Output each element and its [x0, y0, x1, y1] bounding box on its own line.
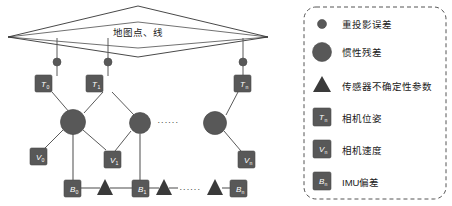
inertial-residual-n[interactable] — [204, 112, 227, 135]
node-Tn-subscript: n — [246, 84, 249, 90]
edge-In-Vn — [224, 131, 241, 151]
map-region-label: 地图点、线 — [113, 27, 163, 38]
node-T0[interactable]: T 0 — [35, 75, 52, 92]
edge-I1-V1 — [115, 131, 131, 151]
large-circle-icon — [313, 43, 332, 62]
legend-velocity-subscript: n — [325, 149, 328, 155]
triangle-icon — [313, 76, 331, 92]
legend-label-inertial-residual: 惯性残差 — [342, 47, 382, 58]
camera-pose-nodes: T 0 T 1 T n — [35, 75, 251, 92]
edge-T1-I0 — [84, 92, 103, 113]
edge-Tn-In — [226, 92, 238, 115]
legend-bias-subscript: n — [325, 181, 328, 187]
factor-graph-figure: 地图点、线 — [0, 0, 452, 206]
legend-item-reprojection-error: 重投影误差 — [318, 19, 393, 30]
reprojection-dot-n[interactable] — [239, 58, 247, 66]
node-V0[interactable]: V 0 — [30, 148, 47, 165]
legend-panel: 重投影误差 惯性残差 传感器不确定性参数 T n 相机位姿 — [304, 7, 446, 199]
inertial-residual-1[interactable] — [130, 113, 151, 134]
node-B0-subscript: 0 — [76, 189, 79, 195]
node-T1[interactable]: T 1 — [86, 75, 103, 92]
node-V0-subscript: 0 — [42, 157, 45, 163]
inertial-residual-0[interactable] — [61, 110, 86, 135]
legend-item-camera-velocity: V n 相机速度 — [313, 140, 382, 158]
legend-label-imu-bias: IMU偏差 — [342, 177, 379, 188]
uncertainty-triangle-0[interactable] — [97, 179, 113, 195]
uncertainty-triangle-1[interactable] — [156, 179, 172, 195]
legend-label-sensor-uncertainty: 传感器不确定性参数 — [342, 81, 432, 92]
node-B1[interactable]: B 1 — [132, 180, 149, 197]
legend-item-camera-pose: T n 相机位姿 — [313, 108, 382, 126]
reprojection-error-nodes — [53, 58, 247, 66]
diagram-canvas: 地图点、线 — [0, 0, 452, 206]
node-V1[interactable]: V 1 — [104, 151, 121, 168]
node-T0-subscript: 0 — [47, 84, 50, 90]
legend-label-camera-pose: 相机位姿 — [342, 113, 382, 124]
edge-I0-V0 — [45, 130, 63, 148]
ellipsis-bottom: ······ — [179, 184, 201, 194]
map-region: 地图点、线 — [8, 6, 268, 57]
node-Bn[interactable]: B n — [230, 180, 247, 197]
edge-T1-I1 — [112, 92, 134, 115]
node-Tn[interactable]: T n — [234, 75, 251, 92]
node-T1-subscript: 1 — [98, 84, 101, 90]
legend-item-sensor-uncertainty: 传感器不确定性参数 — [313, 76, 432, 92]
node-B1-subscript: 1 — [144, 189, 147, 195]
reprojection-dot-1[interactable] — [104, 58, 112, 66]
small-circle-icon — [318, 20, 327, 29]
node-Bn-subscript: n — [242, 189, 245, 195]
node-B0[interactable]: B 0 — [64, 180, 81, 197]
legend-label-camera-velocity: 相机速度 — [342, 145, 382, 156]
legend-item-imu-bias: B n IMU偏差 — [313, 172, 379, 190]
edge-I0-V1 — [83, 130, 106, 150]
node-Vn-subscript: n — [250, 160, 253, 166]
edge-T0-I0 — [52, 92, 70, 113]
camera-velocity-nodes: V 0 V 1 V n — [30, 148, 255, 168]
sensor-uncertainty-nodes — [97, 179, 223, 195]
legend-label-reprojection-error: 重投影误差 — [342, 19, 392, 30]
reprojection-dot-0[interactable] — [53, 58, 61, 66]
node-Vn[interactable]: V n — [238, 151, 255, 168]
legend-pose-subscript: n — [325, 117, 328, 123]
node-V1-subscript: 1 — [116, 160, 119, 166]
inertial-residual-nodes — [61, 110, 227, 135]
legend-item-inertial-residual: 惯性残差 — [313, 43, 383, 62]
uncertainty-triangle-n[interactable] — [207, 179, 223, 195]
legend-border — [304, 7, 446, 199]
ellipsis-middle: ······ — [157, 117, 179, 127]
